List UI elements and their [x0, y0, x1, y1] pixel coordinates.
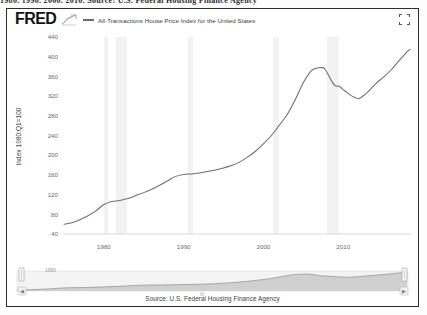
navigator-scroll-right-button: ▶ — [400, 287, 408, 295]
x-tick-label: 1980 — [97, 243, 111, 250]
y-tick-label: 120 — [48, 191, 59, 198]
y-tick-label: 400 — [48, 53, 59, 60]
recession-band — [116, 37, 127, 234]
y-tick-label: 280 — [48, 112, 59, 119]
chart-header: FRED All-Transactions House Price Index … — [7, 9, 418, 31]
legend-series-label: All-Transactions House Price Index for t… — [98, 17, 255, 24]
page-top-text: 1980. 1990. 2000. 2010. Source: U.S. Fed… — [0, 0, 427, 5]
x-tick-label: 2010 — [336, 243, 350, 250]
y-axis-title: Index 1980:Q1=100 — [15, 82, 22, 192]
page-top-text-fragment: 1980. 1990. 2000. 2010. Source: U.S. Fed… — [0, 0, 427, 7]
chart-plot-area[interactable]: Index 1980:Q1=100 4080120160200240280320… — [7, 29, 418, 261]
range-navigator[interactable]: ◀▶ 1980 III — [15, 265, 410, 297]
navigator-scroll-left-button: ◀ — [18, 287, 26, 295]
line-chart-squiggle-icon — [61, 14, 77, 26]
recession-band — [327, 37, 339, 234]
recession-band — [273, 37, 279, 234]
svg-text:▶: ▶ — [402, 288, 406, 294]
y-tick-label: 240 — [48, 132, 59, 139]
chart-plot-svg[interactable]: 4080120160200240280320360400440198019902… — [7, 29, 418, 261]
fred-logo[interactable]: FRED — [15, 11, 56, 27]
source-note: Source: U.S. Federal Housing Finance Age… — [7, 295, 418, 302]
range-navigator-svg[interactable]: ◀▶ — [15, 265, 410, 297]
x-tick-label: 1990 — [177, 243, 191, 250]
y-tick-label: 40 — [51, 230, 58, 237]
y-tick-label: 200 — [48, 151, 59, 158]
legend-line-swatch — [83, 19, 94, 21]
y-tick-label: 360 — [48, 73, 59, 80]
navigator-date-label: 1980 — [45, 267, 56, 273]
y-tick-label: 440 — [48, 33, 59, 40]
chart-legend[interactable]: All-Transactions House Price Index for t… — [83, 14, 255, 26]
screenshot-page: 1980. 1990. 2000. 2010. Source: U.S. Fed… — [0, 0, 427, 315]
range-handle-left-icon — [19, 268, 24, 281]
y-tick-label: 320 — [48, 92, 59, 99]
range-handle-right-icon — [402, 268, 407, 281]
fullscreen-expand-icon[interactable] — [399, 14, 410, 25]
svg-text:◀: ◀ — [20, 288, 24, 294]
y-tick-label: 80 — [51, 211, 58, 218]
recession-band — [188, 37, 194, 234]
x-tick-label: 2000 — [257, 243, 271, 250]
fred-chart-card: FRED All-Transactions House Price Index … — [6, 8, 419, 307]
y-tick-label: 160 — [48, 171, 59, 178]
